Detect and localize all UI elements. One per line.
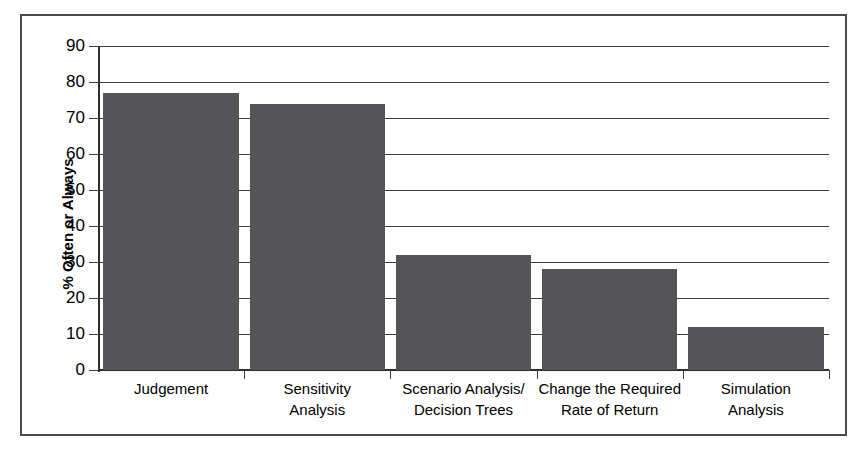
plot-area: 9080706050403020100 <box>98 46 829 370</box>
y-tick-60 <box>89 154 98 155</box>
y-tick-label-60: 60 <box>66 144 85 164</box>
y-tick-label-80: 80 <box>66 72 85 92</box>
x-axis-category-labels: JudgementSensitivityAnalysisScenario Ana… <box>98 378 829 434</box>
y-tick-30 <box>89 262 98 263</box>
y-tick-50 <box>89 190 98 191</box>
bar-4 <box>542 269 677 370</box>
bar-5 <box>688 327 823 370</box>
y-tick-label-0: 0 <box>76 360 85 380</box>
y-tick-0 <box>89 370 98 371</box>
gridline-90 <box>98 46 829 47</box>
y-tick-80 <box>89 82 98 83</box>
bar-3 <box>396 255 531 370</box>
y-tick-20 <box>89 298 98 299</box>
x-axis-label-4: Change the RequiredRate of Return <box>537 378 683 420</box>
chart-frame: % Often or Always 9080706050403020100 Ju… <box>20 14 847 436</box>
y-axis-line <box>98 46 100 372</box>
y-tick-label-20: 20 <box>66 288 85 308</box>
x-axis-label-2: SensitivityAnalysis <box>244 378 390 420</box>
y-tick-label-10: 10 <box>66 324 85 344</box>
y-tick-40 <box>89 226 98 227</box>
gridline-80 <box>98 82 829 83</box>
x-axis-label-3: Scenario Analysis/Decision Trees <box>390 378 536 420</box>
y-tick-10 <box>89 334 98 335</box>
y-tick-label-40: 40 <box>66 216 85 236</box>
bar-2 <box>250 104 385 370</box>
x-axis-label-1: Judgement <box>98 378 244 399</box>
x-tick-5 <box>829 370 830 379</box>
y-tick-90 <box>89 46 98 47</box>
x-axis-label-5: SimulationAnalysis <box>683 378 829 420</box>
y-tick-label-50: 50 <box>66 180 85 200</box>
y-tick-label-90: 90 <box>66 36 85 56</box>
bar-1 <box>103 93 238 370</box>
y-tick-label-30: 30 <box>66 252 85 272</box>
y-tick-label-70: 70 <box>66 108 85 128</box>
y-tick-70 <box>89 118 98 119</box>
